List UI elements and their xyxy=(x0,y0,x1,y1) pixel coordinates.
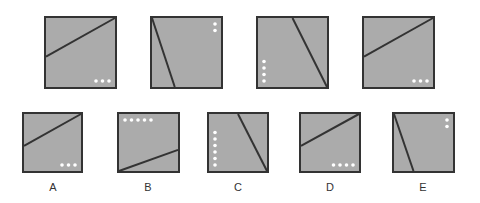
panel-square xyxy=(393,113,454,172)
dot xyxy=(130,118,134,122)
dot xyxy=(262,60,266,64)
panel-square xyxy=(363,17,434,88)
dot xyxy=(345,163,349,167)
dot xyxy=(107,79,111,83)
sequence-panel-1 xyxy=(44,16,117,89)
option-label-e: E xyxy=(413,181,433,193)
dot xyxy=(94,79,98,83)
option-label-a: A xyxy=(43,181,63,193)
dot xyxy=(73,163,77,167)
dot xyxy=(67,163,71,167)
dot xyxy=(419,79,423,83)
panel-figure xyxy=(44,16,117,89)
dot xyxy=(338,163,342,167)
option-label-d: D xyxy=(320,181,340,193)
dot xyxy=(412,79,416,83)
dot xyxy=(332,163,336,167)
dot xyxy=(143,118,147,122)
sequence-panel-3 xyxy=(256,16,329,89)
dot xyxy=(213,157,217,161)
option-panel-c[interactable] xyxy=(207,112,269,173)
dot xyxy=(262,66,266,70)
option-panel-b[interactable] xyxy=(117,112,180,173)
dot xyxy=(149,118,153,122)
dot xyxy=(213,163,217,167)
dot xyxy=(351,163,355,167)
panel-figure xyxy=(207,112,269,173)
panel-figure xyxy=(150,16,223,89)
dot xyxy=(123,118,127,122)
panel-figure xyxy=(256,16,329,89)
dot xyxy=(445,118,449,122)
dot xyxy=(101,79,105,83)
dot xyxy=(262,73,266,77)
panel-figure xyxy=(22,112,83,173)
sequence-panel-4 xyxy=(362,16,435,89)
option-panel-d[interactable] xyxy=(299,112,361,173)
dot xyxy=(213,150,217,154)
dot xyxy=(425,79,429,83)
dot xyxy=(213,29,217,33)
panel-square xyxy=(45,17,116,88)
panel-square xyxy=(118,113,179,172)
dot xyxy=(136,118,140,122)
dot xyxy=(60,163,64,167)
panel-figure xyxy=(117,112,180,173)
dot xyxy=(213,137,217,141)
panel-figure xyxy=(362,16,435,89)
panel-square xyxy=(151,17,222,88)
option-panel-e[interactable] xyxy=(392,112,455,173)
panel-square xyxy=(257,17,328,88)
option-panel-a[interactable] xyxy=(22,112,83,173)
option-label-b: B xyxy=(138,181,158,193)
panel-figure xyxy=(392,112,455,173)
dot xyxy=(213,22,217,26)
panel-figure xyxy=(299,112,361,173)
dot xyxy=(262,79,266,83)
dot xyxy=(213,131,217,135)
option-label-c: C xyxy=(228,181,248,193)
dot xyxy=(213,144,217,148)
dot xyxy=(445,125,449,129)
panel-square xyxy=(208,113,268,172)
sequence-panel-2 xyxy=(150,16,223,89)
